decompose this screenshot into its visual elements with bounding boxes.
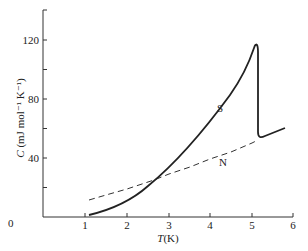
chart-canvas: 0 40 80 120 1 2 3 4 5 6 T(K) C (mJ mol⁻¹…: [0, 0, 308, 251]
y-ticks: [43, 40, 47, 188]
x-tick-label-6: 6: [290, 219, 296, 231]
series-s-label: S: [217, 102, 223, 114]
x-axis-title: T(K): [157, 232, 179, 245]
series-n-curve: [89, 140, 258, 200]
y-tick-label-40: 40: [28, 152, 40, 164]
y-tick-label-0: 0: [8, 217, 14, 229]
x-tick-label-2: 2: [124, 219, 130, 231]
x-tick-label-3: 3: [166, 219, 172, 231]
series-s-curve: [89, 45, 285, 215]
x-ticks: [85, 213, 293, 217]
y-tick-label-80: 80: [28, 93, 40, 105]
y-axis-title: C (mJ mol⁻¹ K⁻¹): [14, 78, 27, 158]
y-tick-label-120: 120: [23, 34, 40, 46]
series-n-label: N: [219, 156, 227, 168]
x-tick-label-1: 1: [82, 219, 88, 231]
x-tick-label-4: 4: [207, 219, 213, 231]
x-tick-label-5: 5: [249, 219, 255, 231]
